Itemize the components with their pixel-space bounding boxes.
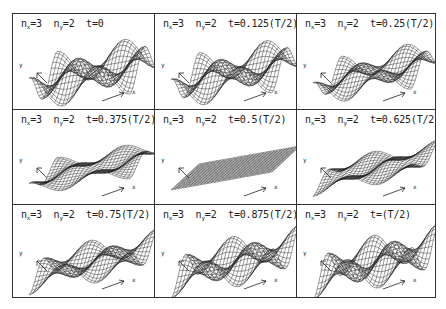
y-axis-label: y [19, 156, 23, 164]
y-axis-label: y [303, 61, 307, 69]
x-axis-label: x [413, 183, 417, 190]
y-axis-arrow-icon [37, 261, 47, 271]
x-axis-label: x [413, 88, 417, 95]
x-axis-label: x [413, 276, 417, 283]
panel-t05: nx=3 ny=2 t=0.5(T/2) yx [155, 110, 297, 205]
x-axis-arrow-icon [102, 187, 124, 196]
wireframe-surface: yx [155, 110, 296, 204]
wireframe-surface: yx [297, 110, 435, 204]
x-axis-label: x [132, 183, 136, 190]
y-axis-label: y [19, 249, 23, 257]
wireframe-surface: yx [297, 14, 435, 109]
panel-t0: nx=3 ny=2 t=0 yx [13, 14, 155, 110]
wireframe-surface: yx [13, 14, 154, 109]
x-axis-arrow-icon [383, 187, 405, 196]
x-axis-label: x [274, 276, 278, 283]
x-axis-label: x [132, 276, 136, 283]
x-axis-label: x [274, 88, 278, 95]
x-axis-arrow-icon [244, 187, 266, 196]
y-axis-arrow-icon [321, 73, 331, 83]
panel-t0375: nx=3 ny=2 t=0.375(T/2) yx [13, 110, 155, 205]
y-axis-label: y [303, 249, 307, 257]
y-axis-label: y [19, 61, 23, 69]
y-axis-label: y [161, 249, 165, 257]
y-axis-arrow-icon [37, 168, 47, 178]
x-axis-arrow-icon [102, 280, 124, 289]
x-axis-arrow-icon [102, 92, 124, 101]
x-axis-arrow-icon [244, 280, 266, 289]
wireframe-surface: yx [13, 205, 154, 297]
x-axis-label: x [274, 183, 278, 190]
wireframe-surface: yx [155, 14, 296, 109]
panel-t075: nx=3 ny=2 t=0.75(T/2) yx [13, 205, 155, 297]
panel-t025: nx=3 ny=2 t=0.25(T/2) yx [297, 14, 435, 110]
panel-t1: nx=3 ny=2 t=(T/2) yx [297, 205, 435, 297]
y-axis-label: y [161, 156, 165, 164]
panel-t0125: nx=3 ny=2 t=0.125(T/2) yx [155, 14, 297, 110]
figure-grid: nx=3 ny=2 t=0 yx nx=3 ny=2 t=0.125(T/2) … [12, 13, 436, 298]
panel-t0875: nx=3 ny=2 t=0.875(T/2) yx [155, 205, 297, 297]
x-axis-arrow-icon [244, 92, 266, 101]
panel-t0625: nx=3 ny=2 t=0.625(T/2) yx [297, 110, 435, 205]
wireframe-surface: yx [155, 205, 296, 297]
x-axis-arrow-icon [383, 92, 405, 101]
wireframe-surface: yx [297, 205, 435, 297]
wireframe-surface: yx [13, 110, 154, 204]
y-axis-label: y [303, 156, 307, 164]
y-axis-label: y [161, 61, 165, 69]
x-axis-label: x [132, 88, 136, 95]
y-axis-arrow-icon [179, 168, 189, 178]
